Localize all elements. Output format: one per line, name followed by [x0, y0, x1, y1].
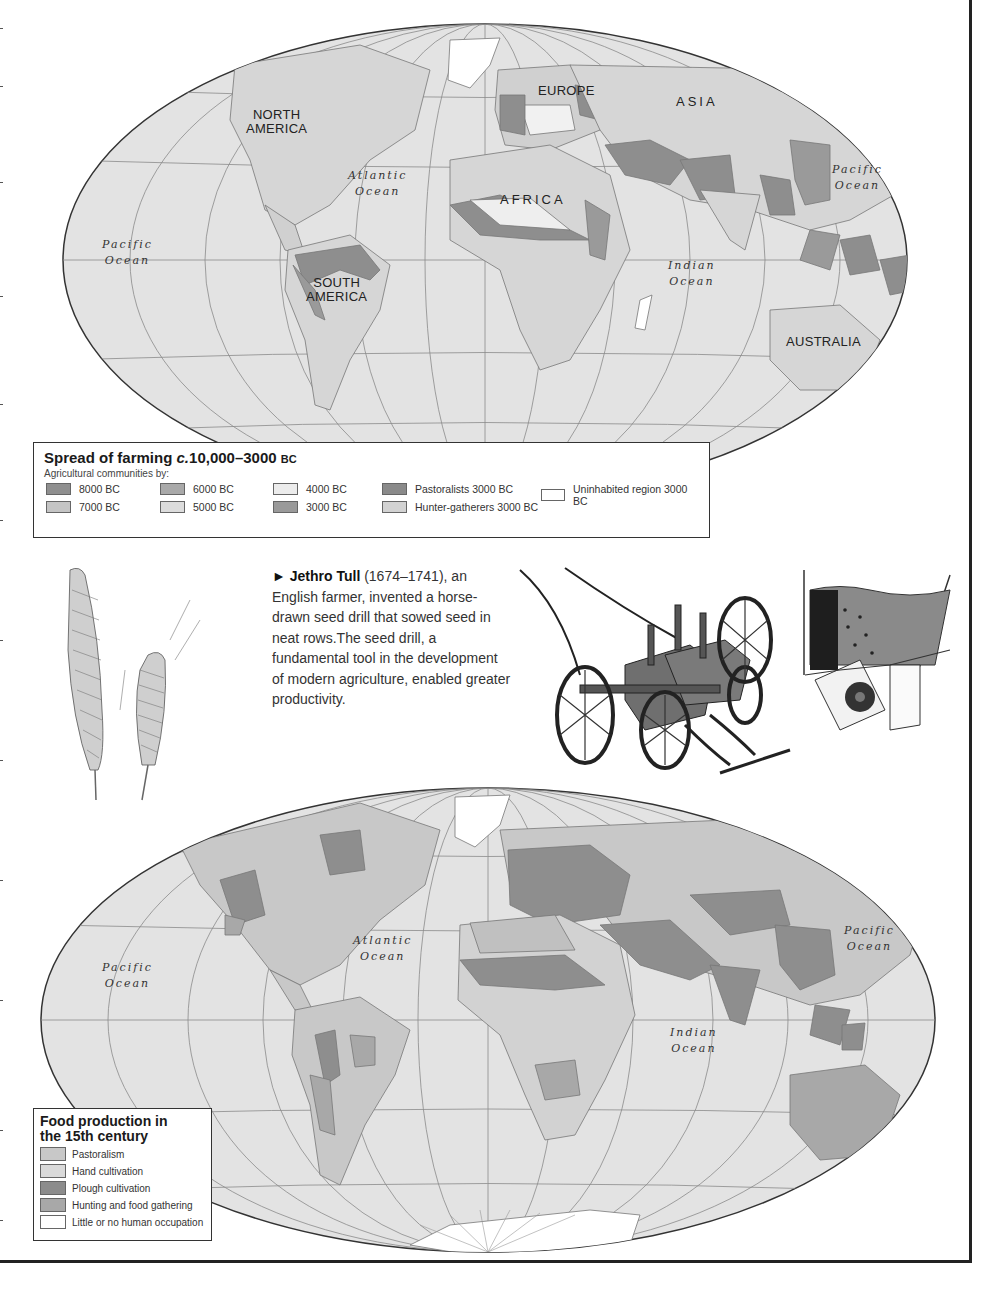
legend-label: 5000 BC [193, 501, 234, 513]
legend-items: 8000 BC 7000 BC 6000 BC 5000 BC 4000 BC … [44, 479, 699, 521]
seed-mechanism-icon [800, 565, 960, 750]
spread-of-farming-legend: Spread of farming c.10,000–3000 BC Agric… [33, 442, 710, 538]
label-pacific-ocean-east: Pacific Ocean [832, 162, 883, 194]
legend2-label: Pastoralism [72, 1149, 124, 1160]
legend-swatch [46, 501, 71, 513]
seed-drill-mechanism-detail [800, 565, 960, 750]
pacific-west-line1: Pacific [102, 960, 153, 976]
label-pacific-ocean-west: Pacific Ocean [102, 237, 153, 269]
label-atlantic-ocean-bottom: Atlantic Ocean [353, 933, 412, 965]
label-south-america: SOUTH AMERICA [306, 276, 367, 304]
legend2-swatch [40, 1215, 66, 1229]
label-north-america-line2: AMERICA [246, 122, 307, 136]
binding-edge-ticks [0, 0, 4, 1260]
legend2-swatch [40, 1198, 66, 1212]
legend-subtitle: Agricultural communities by: [44, 468, 699, 479]
legend2-title-line2: the 15th century [40, 1129, 205, 1144]
legend-swatch [160, 501, 185, 513]
legend-label: Hunter-gatherers 3000 BC [415, 501, 538, 513]
legend-swatch [273, 483, 298, 495]
label-pacific-ocean-east-bottom: Pacific Ocean [844, 923, 895, 955]
label-south-america-line2: AMERICA [306, 290, 367, 304]
legend-title-era: BC [281, 453, 297, 465]
caption-dates: (1674–1741), [360, 568, 447, 584]
legend2-item: Plough cultivation [40, 1181, 205, 1195]
seed-drill-icon [515, 565, 795, 780]
label-africa: AFRICA [500, 193, 566, 207]
indian-line2: Ocean [668, 274, 716, 290]
legend-item: 8000 BC [46, 483, 120, 495]
label-indian-ocean-bottom: Indian Ocean [670, 1025, 718, 1057]
legend-item: 7000 BC [46, 501, 120, 513]
pacific-east-line2: Ocean [844, 939, 895, 955]
legend-label: 6000 BC [193, 483, 234, 495]
seed-drill-illustration [515, 565, 795, 780]
food-production-legend: Food production in the 15th century Past… [33, 1108, 212, 1241]
legend2-swatch [40, 1164, 66, 1178]
legend-swatch [541, 489, 565, 501]
indian-line1: Indian [670, 1025, 718, 1041]
indian-line1: Indian [668, 258, 716, 274]
legend-label: 7000 BC [79, 501, 120, 513]
legend2-title-line1: Food production in [40, 1114, 205, 1129]
legend-swatch [382, 483, 407, 495]
legend-title-circa: c. [177, 449, 190, 466]
legend2-label: Hand cultivation [72, 1166, 143, 1177]
label-europe: EUROPE [538, 84, 595, 98]
caption-name: Jethro Tull [290, 568, 361, 584]
spread-of-farming-map: NORTH AMERICA EUROPE ASIA AFRICA SOUTH A… [30, 10, 970, 470]
legend-label: 3000 BC [306, 501, 347, 513]
wheat-ears-illustration [50, 560, 210, 805]
label-atlantic-ocean: Atlantic Ocean [348, 168, 407, 200]
pacific-west-line2: Ocean [102, 253, 153, 269]
legend2-label: Little or no human occupation [72, 1217, 203, 1228]
legend2-item: Little or no human occupation [40, 1215, 205, 1229]
label-north-america-line1: NORTH [246, 108, 307, 122]
label-pacific-ocean-west-bottom: Pacific Ocean [102, 960, 153, 992]
legend2-swatch [40, 1181, 66, 1195]
legend-item: 5000 BC [160, 501, 234, 513]
legend-item: 4000 BC [273, 483, 347, 495]
atlantic-line1: Atlantic [348, 168, 407, 184]
legend-swatch [273, 501, 298, 513]
label-south-america-line1: SOUTH [306, 276, 367, 290]
atlantic-line2: Ocean [353, 949, 412, 965]
pacific-east-line2: Ocean [832, 178, 883, 194]
label-north-america: NORTH AMERICA [246, 108, 307, 136]
legend2-title: Food production in the 15th century [40, 1114, 205, 1144]
legend-label: 4000 BC [306, 483, 347, 495]
atlantic-line2: Ocean [348, 184, 407, 200]
pacific-east-line1: Pacific [832, 162, 883, 178]
pacific-west-line1: Pacific [102, 237, 153, 253]
legend-swatch [46, 483, 71, 495]
wheat-icon [50, 560, 210, 805]
legend-item: Hunter-gatherers 3000 BC [382, 501, 538, 513]
pacific-west-line2: Ocean [102, 976, 153, 992]
atlantic-line1: Atlantic [353, 933, 412, 949]
jethro-tull-caption: ► Jethro Tull (1674–1741), an English fa… [272, 566, 512, 710]
legend-item: Pastoralists 3000 BC [382, 483, 513, 495]
pacific-east-line1: Pacific [844, 923, 895, 939]
caption-body: an English farmer, invented a horse-draw… [272, 568, 510, 707]
legend-title-range: 10,000–3000 [189, 449, 277, 466]
legend-label: Uninhabited region 3000 BC [573, 483, 699, 507]
legend-swatch [382, 501, 407, 513]
label-asia: ASIA [676, 95, 718, 109]
world-map-projection-top [30, 10, 970, 470]
caption-arrow-icon: ► [272, 568, 286, 584]
legend-label: Pastoralists 3000 BC [415, 483, 513, 495]
label-australia: AUSTRALIA [786, 335, 861, 349]
legend2-item: Hand cultivation [40, 1164, 205, 1178]
legend-swatch [160, 483, 185, 495]
legend2-swatch [40, 1147, 66, 1161]
indian-line2: Ocean [670, 1041, 718, 1057]
legend-item: 3000 BC [273, 501, 347, 513]
legend2-item: Pastoralism [40, 1147, 205, 1161]
legend-item: Uninhabited region 3000 BC [541, 483, 699, 507]
legend-title: Spread of farming c.10,000–3000 BC [44, 449, 699, 466]
legend-item: 6000 BC [160, 483, 234, 495]
legend-label: 8000 BC [79, 483, 120, 495]
legend-title-text: Spread of farming [44, 449, 172, 466]
label-indian-ocean: Indian Ocean [668, 258, 716, 290]
legend2-label: Plough cultivation [72, 1183, 150, 1194]
